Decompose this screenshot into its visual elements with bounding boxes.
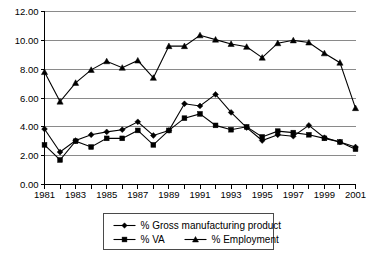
line-chart: 0.002.004.006.008.0010.0012.00 198119831…	[0, 0, 370, 260]
data-point-marker-square	[73, 139, 78, 144]
data-point-marker-square	[89, 145, 94, 150]
data-point-marker-square	[291, 130, 296, 135]
data-point-marker-square	[260, 135, 265, 140]
data-point-marker-triangle	[119, 65, 125, 71]
series-square	[42, 111, 358, 162]
data-point-marker-diamond	[182, 101, 188, 107]
x-axis-tick-label: 1999	[314, 189, 335, 200]
data-point-marker-square	[42, 142, 47, 147]
data-point-marker-triangle	[321, 50, 327, 56]
data-point-marker-triangle	[352, 105, 358, 111]
x-axis-tick-label: 1981	[34, 189, 55, 200]
data-point-marker-square	[244, 124, 249, 129]
legend-label: % Gross manufacturing product	[141, 220, 282, 231]
data-point-marker-square	[306, 132, 311, 137]
data-point-marker-square	[353, 147, 358, 152]
data-point-marker-square	[151, 142, 156, 147]
x-axis-tick-label: 1985	[96, 189, 117, 200]
data-point-marker-square	[104, 136, 109, 141]
x-axis-tick-label: 1991	[189, 189, 210, 200]
data-point-marker-square	[229, 127, 234, 132]
data-point-marker-square	[338, 140, 343, 145]
data-point-marker-triangle	[41, 69, 47, 75]
data-point-marker-triangle	[104, 58, 110, 64]
data-point-marker-square	[167, 128, 172, 133]
data-point-marker-square	[275, 129, 280, 134]
x-axis-tick-label: 1995	[252, 189, 273, 200]
data-point-marker-diamond	[119, 127, 125, 133]
chart-container: 0.002.004.006.008.0010.0012.00 198119831…	[0, 0, 370, 260]
x-axis-tick-label: 1993	[221, 189, 242, 200]
data-point-marker-square	[135, 128, 140, 133]
x-axis-tick-labels: 1981198319851987198919911993199519971999…	[34, 189, 366, 200]
data-point-marker-triangle	[197, 32, 203, 38]
y-axis-tick-labels: 0.002.004.006.008.0010.0012.00	[15, 6, 39, 190]
data-point-marker-square	[182, 116, 187, 121]
y-axis-tick-label: 6.00	[20, 93, 39, 104]
y-axis-tick-label: 2.00	[20, 150, 39, 161]
legend-label: % VA	[141, 234, 166, 245]
y-axis-tick-label: 4.00	[20, 121, 39, 132]
y-axis-tick-label: 12.00	[15, 6, 39, 17]
chart-legend: % Gross manufacturing product% VA% Emplo…	[104, 214, 282, 250]
data-point-marker-square	[58, 158, 63, 163]
x-axis-tick-label: 1983	[65, 189, 86, 200]
series-triangle	[41, 32, 358, 110]
x-axis-tick-label: 1987	[127, 189, 148, 200]
y-axis-tick-label: 8.00	[20, 64, 39, 75]
data-point-marker-square	[120, 136, 125, 141]
data-point-marker-square	[322, 136, 327, 141]
data-point-marker-square	[122, 237, 127, 242]
data-series	[41, 32, 358, 162]
x-axis-tick-label: 1997	[283, 189, 304, 200]
y-axis-tick-label: 10.00	[15, 35, 39, 46]
data-point-marker-square	[213, 123, 218, 128]
x-axis-tick-label: 2001	[345, 189, 366, 200]
data-point-marker-square	[198, 111, 203, 116]
data-point-marker-diamond	[104, 129, 110, 135]
data-point-marker-triangle	[337, 60, 343, 66]
data-point-marker-triangle	[135, 57, 141, 63]
data-point-marker-diamond	[88, 132, 94, 138]
x-axis-tick-label: 1989	[158, 189, 179, 200]
legend-label: % Employment	[212, 234, 279, 245]
